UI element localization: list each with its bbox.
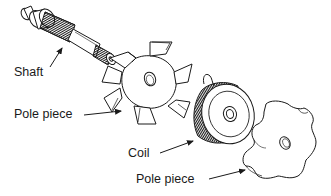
exploded-rotor-diagram: Shaft Pole piece Coil Pole piece — [0, 0, 331, 196]
coil-part — [194, 74, 261, 149]
shaft-label: Shaft — [14, 66, 43, 79]
pole-piece-rear-leader-arrow — [209, 170, 245, 179]
shaft-part — [19, 6, 117, 66]
pole-piece-rear-label: Pole piece — [136, 173, 194, 186]
coil-leader-arrow — [160, 141, 193, 153]
pole-piece-front-leader-arrow — [84, 111, 121, 115]
coil-label: Coil — [128, 147, 150, 160]
diagram-drawing — [0, 0, 331, 196]
shaft-leader-arrow — [50, 48, 62, 67]
pole-piece-front-label: Pole piece — [14, 108, 72, 121]
